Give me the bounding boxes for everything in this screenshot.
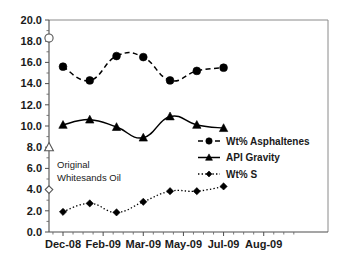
x-tick-label: Dec-08: [45, 238, 81, 250]
y-tick-label: 16.0: [21, 56, 42, 68]
legend-label: Wt% S: [226, 169, 257, 180]
y-tick-label: 14.0: [21, 77, 42, 89]
legend-marker-sample: [206, 171, 212, 177]
legend-label: API Gravity: [226, 152, 280, 163]
y-tick-label: 4.0: [27, 183, 42, 195]
y-tick-label: 2.0: [27, 205, 42, 217]
y-tick-label: 0.0: [27, 226, 42, 238]
y-tick-label: 20.0: [21, 14, 42, 26]
reference-point-marker: [45, 34, 53, 42]
y-axis-tick-labels: 0.02.04.06.08.010.012.014.016.018.020.0: [21, 14, 42, 238]
data-point: [166, 188, 173, 195]
data-point: [220, 64, 228, 72]
series-wt-asphaltenes: [59, 52, 227, 84]
legend-item-wt-asphaltenes[interactable]: Wt% Asphaltenes: [198, 136, 310, 147]
data-series-group: [59, 52, 228, 216]
data-point: [113, 209, 120, 216]
x-tick-label: Jul-09: [208, 238, 240, 250]
y-tick-label: 8.0: [27, 141, 42, 153]
legend-item-wt-s[interactable]: Wt% S: [198, 169, 257, 180]
plot-frame: [49, 20, 328, 232]
y-tick-label: 18.0: [21, 35, 42, 47]
y-axis-ticks: [45, 20, 49, 232]
data-point: [140, 198, 147, 205]
x-tick-label: Feb-09: [85, 238, 120, 250]
reference-point-marker: [45, 143, 54, 151]
chart-legend: Wt% AsphaltenesAPI GravityWt% S: [198, 136, 310, 180]
data-point: [59, 63, 67, 71]
series-api-gravity: [59, 112, 228, 141]
data-point: [193, 67, 201, 75]
chart-container: 0.02.04.06.08.010.012.014.016.018.020.0 …: [0, 0, 362, 263]
data-point: [193, 188, 200, 195]
x-tick-label: May-09: [165, 238, 202, 250]
legend-marker-sample: [206, 138, 212, 144]
data-point: [139, 53, 147, 61]
x-tick-label: Aug-09: [245, 238, 282, 250]
line-chart: 0.02.04.06.08.010.012.014.016.018.020.0 …: [0, 0, 362, 263]
y-tick-label: 12.0: [21, 99, 42, 111]
reference-point-marker: [45, 186, 53, 194]
data-point: [59, 208, 66, 215]
annotation-line-1: Original: [57, 159, 90, 170]
data-point: [86, 77, 94, 85]
y-tick-label: 10.0: [21, 120, 42, 132]
x-tick-label: Mar-09: [126, 238, 161, 250]
x-axis-tick-labels: Dec-08Feb-09Mar-09May-09Jul-09Aug-09: [45, 238, 282, 250]
data-point: [86, 200, 93, 207]
data-point: [113, 52, 121, 60]
legend-item-api-gravity[interactable]: API Gravity: [198, 152, 280, 163]
legend-label: Wt% Asphaltenes: [226, 136, 310, 147]
data-point: [166, 77, 174, 85]
data-point: [220, 183, 227, 190]
annotation-line-2: Whitesands Oil: [57, 172, 121, 183]
y-tick-label: 6.0: [27, 162, 42, 174]
series-wt-s: [59, 183, 227, 216]
annotation-original-whitesands-oil: Original Whitesands Oil: [57, 159, 121, 183]
